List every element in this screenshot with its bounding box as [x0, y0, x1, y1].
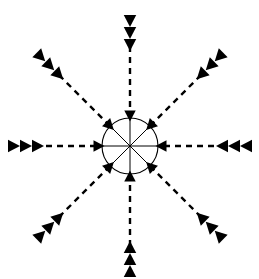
trail-marker-icon-east-2 — [228, 140, 240, 152]
trail-marker-icon-south-2 — [124, 253, 136, 265]
trail-marker-icon-southwest-1 — [32, 231, 45, 244]
trail-marker-icon-south-3 — [124, 241, 136, 253]
trail-marker-icon-west-2 — [20, 140, 32, 152]
diagram-canvas — [0, 0, 259, 279]
center-hub-layer — [102, 118, 158, 174]
trail-marker-icon-east-1 — [240, 140, 252, 152]
dashed-line-northwest — [59, 75, 108, 124]
trail-marker-icon-north-2 — [124, 27, 136, 39]
trail-marker-icon-southeast-1 — [215, 231, 228, 244]
trail-marker-icon-northwest-1 — [32, 48, 45, 61]
trail-marker-icon-south-1 — [124, 265, 136, 277]
dashed-line-southeast — [152, 168, 201, 217]
radial-convergence-diagram — [0, 0, 259, 279]
dashed-line-northeast — [152, 75, 201, 124]
trail-marker-icon-west-1 — [8, 140, 20, 152]
trail-marker-icon-north-3 — [124, 39, 136, 51]
trail-marker-icon-west-3 — [32, 140, 44, 152]
dashed-line-southwest — [59, 168, 108, 217]
trail-marker-icon-northeast-1 — [215, 48, 228, 61]
trail-marker-icon-east-3 — [216, 140, 228, 152]
trail-marker-icon-north-1 — [124, 15, 136, 27]
